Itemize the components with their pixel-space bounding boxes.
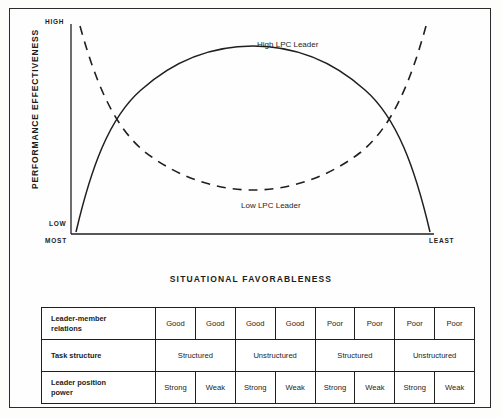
row-header-line2: power <box>51 388 73 397</box>
cell-relations-5: Poor <box>315 308 355 340</box>
cell-power-4: Weak <box>275 372 315 404</box>
cell-task-4: Unstructured <box>395 340 475 372</box>
table-body: Leader-member relations Good Good Good G… <box>42 308 475 404</box>
cell-task-3: Structured <box>315 340 395 372</box>
cell-relations-6: Poor <box>355 308 395 340</box>
cell-power-6: Weak <box>355 372 395 404</box>
plot-area <box>9 8 491 256</box>
cell-relations-4: Good <box>275 308 315 340</box>
section-title-situational-favorableness: SITUATIONAL FAVORABLENESS <box>0 274 502 284</box>
annotation-high-lpc-leader: High LPC Leader <box>257 40 318 49</box>
row-header-line1: Leader-member <box>51 314 106 323</box>
table-row-leader-position-power: Leader position power Strong Weak Strong… <box>42 372 475 404</box>
cell-relations-1: Good <box>156 308 196 340</box>
row-header-line2: relations <box>51 324 82 333</box>
situational-favorableness-table: Leader-member relations Good Good Good G… <box>41 307 475 404</box>
cell-relations-8: Poor <box>435 308 475 340</box>
cell-task-2: Unstructured <box>235 340 315 372</box>
row-header-line1: Leader position <box>51 378 106 387</box>
row-header-leader-position-power: Leader position power <box>42 372 156 404</box>
cell-power-2: Weak <box>195 372 235 404</box>
cell-power-8: Weak <box>435 372 475 404</box>
cell-power-5: Strong <box>315 372 355 404</box>
cell-relations-2: Good <box>195 308 235 340</box>
contingency-model-chart: PERFORMANCE EFFECTIVENESS HIGH LOW MOST … <box>9 8 491 256</box>
row-header-task-structure: Task structure <box>42 340 156 372</box>
cell-relations-3: Good <box>235 308 275 340</box>
cell-relations-7: Poor <box>395 308 435 340</box>
table-row-leader-member-relations: Leader-member relations Good Good Good G… <box>42 308 475 340</box>
row-header-leader-member-relations: Leader-member relations <box>42 308 156 340</box>
figure-page: PERFORMANCE EFFECTIVENESS HIGH LOW MOST … <box>0 0 502 418</box>
low-lpc-leader-curve <box>80 26 426 190</box>
cell-power-1: Strong <box>156 372 196 404</box>
cell-power-3: Strong <box>235 372 275 404</box>
cell-power-7: Strong <box>395 372 435 404</box>
annotation-low-lpc-leader: Low LPC Leader <box>241 201 301 210</box>
row-header-line1: Task structure <box>51 351 101 360</box>
table-row-task-structure: Task structure Structured Unstructured S… <box>42 340 475 372</box>
cell-task-1: Structured <box>156 340 236 372</box>
